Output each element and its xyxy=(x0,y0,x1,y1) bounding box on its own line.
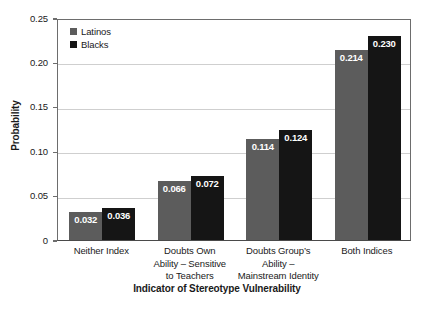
y-tick-label: 0 xyxy=(2,235,48,246)
bar-latinos: 0.214 xyxy=(335,50,368,240)
bar-latinos: 0.032 xyxy=(69,212,102,240)
bar-blacks: 0.230 xyxy=(368,36,401,240)
legend-swatch-latinos-icon xyxy=(70,28,77,35)
bar-value-label: 0.036 xyxy=(102,210,135,221)
bar-value-label: 0.124 xyxy=(279,132,312,143)
bar-value-label: 0.032 xyxy=(69,214,102,225)
y-tick-label: 0.15 xyxy=(2,101,48,112)
legend-swatch-blacks-icon xyxy=(70,41,77,48)
bar-blacks: 0.124 xyxy=(279,130,312,240)
bar-latinos: 0.114 xyxy=(246,139,279,240)
legend-label-blacks: Blacks xyxy=(81,39,108,50)
x-tick-label-line: Both Indices xyxy=(307,245,427,258)
x-tick-label-line: Ability – xyxy=(218,258,338,271)
bar-value-label: 0.214 xyxy=(335,52,368,63)
bar-blacks: 0.036 xyxy=(102,208,135,240)
bar-value-label: 0.072 xyxy=(191,178,224,189)
plot-area: 0.0320.0360.0660.0720.1140.1240.2140.230… xyxy=(57,19,411,241)
bar-value-label: 0.066 xyxy=(158,183,191,194)
legend-item-latinos: Latinos xyxy=(70,26,111,37)
bar-value-label: 0.114 xyxy=(246,141,279,152)
bar-value-label: 0.230 xyxy=(368,38,401,49)
y-tick-label: 0.05 xyxy=(2,190,48,201)
y-axis-title: Probability xyxy=(10,66,21,186)
x-axis-title: Indicator of Stereotype Vulnerability xyxy=(0,283,434,294)
bar-latinos: 0.066 xyxy=(158,181,191,240)
legend: Latinos Blacks xyxy=(70,26,111,52)
y-tick-label: 0.20 xyxy=(2,57,48,68)
legend-label-latinos: Latinos xyxy=(81,26,111,37)
x-tick-label: Both Indices xyxy=(307,245,427,258)
bar-blacks: 0.072 xyxy=(191,176,224,240)
y-tick-label: 0.25 xyxy=(2,13,48,24)
bar-chart: Probability 0.250.200.150.100.050 0.0320… xyxy=(0,0,434,313)
legend-item-blacks: Blacks xyxy=(70,39,111,50)
y-tick-label: 0.10 xyxy=(2,146,48,157)
x-tick-label-line: Mainstream Identity xyxy=(218,270,338,283)
